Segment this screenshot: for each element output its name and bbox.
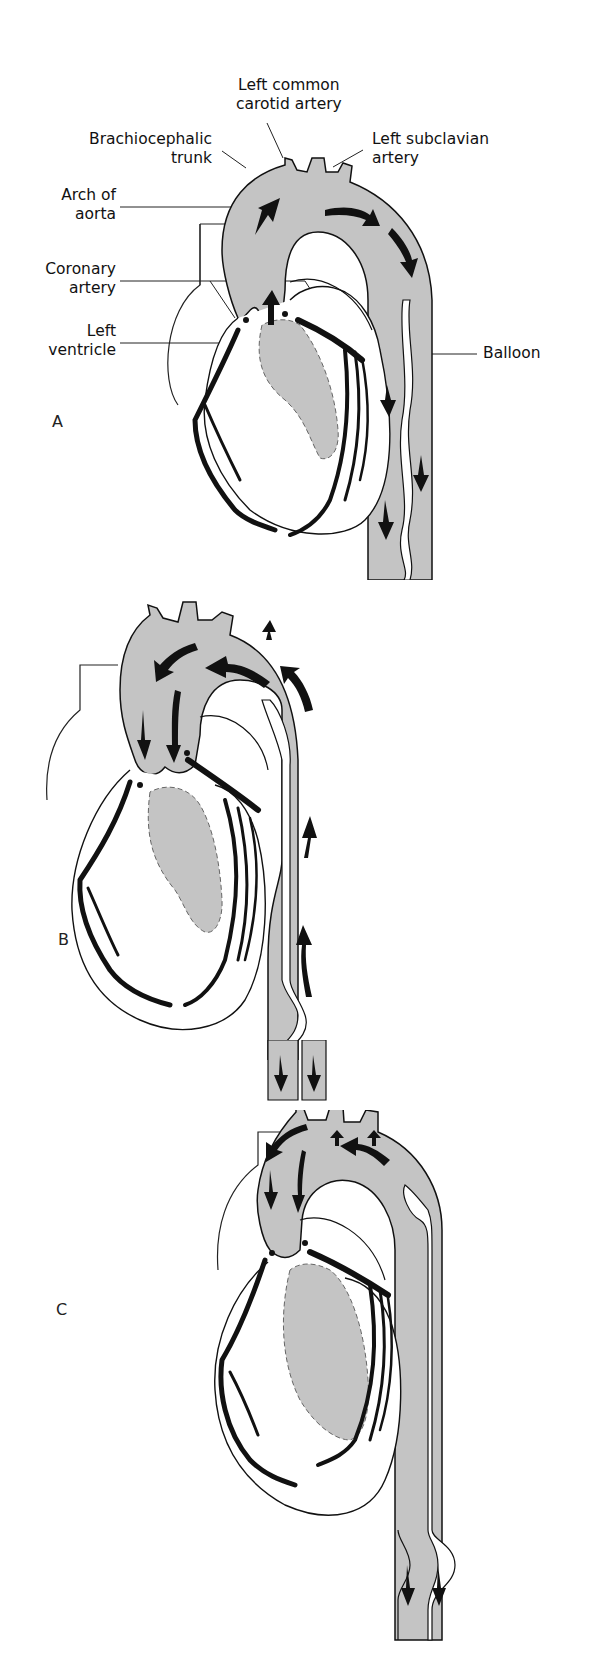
label-left-common-carotid: Left common carotid artery [236, 76, 342, 114]
panel-a: Left common carotid artery Brachiocephal… [0, 0, 605, 580]
panel-b-tail-illustration [0, 1040, 605, 1110]
flow-arrow-icon [262, 620, 276, 640]
label-arch-of-aorta: Arch of aorta [20, 186, 116, 224]
label-coronary-artery: Coronary artery [20, 260, 116, 298]
panel-b-tail [0, 1040, 605, 1110]
panel-b: B [0, 560, 605, 1060]
panel-c: C [0, 1110, 605, 1665]
label-left-subclavian: Left subclavian artery [372, 130, 489, 168]
flow-arrow-icon [302, 816, 317, 858]
panel-c-illustration [0, 1110, 605, 1665]
panel-b-illustration [0, 560, 605, 1060]
label-brachiocephalic-trunk: Brachiocephalic trunk [76, 130, 212, 168]
label-balloon: Balloon [483, 344, 541, 363]
panel-letter-a: A [52, 412, 63, 431]
label-left-ventricle: Left ventricle [20, 322, 116, 360]
panel-letter-c: C [56, 1300, 67, 1319]
panel-letter-b: B [58, 930, 69, 949]
